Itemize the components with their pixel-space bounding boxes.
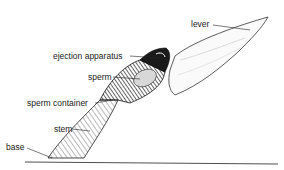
label-ejection-apparatus: ejection apparatus — [53, 52, 122, 61]
leader-line-base — [27, 148, 52, 158]
label-lever: lever — [191, 20, 209, 29]
lever-shape — [169, 17, 268, 95]
label-sperm-container: sperm container — [27, 99, 88, 108]
stamen-diagram: lever ejection apparatus sperm sperm con… — [0, 0, 284, 170]
ground-line — [25, 162, 278, 164]
label-base: base — [6, 143, 24, 152]
stamen-illustration — [0, 0, 284, 170]
label-sperm: sperm — [88, 73, 112, 82]
label-stem: stem — [54, 125, 72, 134]
